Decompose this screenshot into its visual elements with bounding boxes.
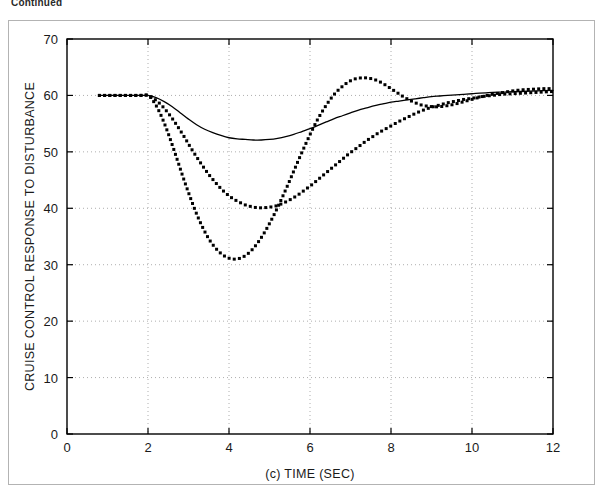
data-point-marker <box>548 87 551 90</box>
data-point-marker <box>239 201 242 204</box>
data-point-marker <box>445 104 448 107</box>
data-point-marker <box>408 115 411 118</box>
data-point-marker <box>379 81 382 84</box>
data-point-marker <box>302 190 305 193</box>
data-point-marker <box>160 114 163 117</box>
data-point-marker <box>158 102 161 105</box>
data-point-marker <box>286 185 289 188</box>
data-point-marker <box>516 89 519 92</box>
data-point-marker <box>342 157 345 160</box>
data-point-marker <box>363 141 366 144</box>
data-point-marker <box>501 91 504 94</box>
data-point-marker <box>300 151 303 154</box>
data-point-marker <box>422 109 425 112</box>
data-point-marker <box>337 89 340 92</box>
data-point-marker <box>430 105 433 108</box>
data-point-marker <box>186 187 189 190</box>
data-point-marker <box>397 92 400 95</box>
data-point-marker <box>197 216 200 219</box>
data-point-marker <box>333 93 336 96</box>
data-point-marker <box>215 248 218 251</box>
data-point-marker <box>307 137 310 140</box>
data-point-marker <box>167 133 170 136</box>
data-point-marker <box>181 173 184 176</box>
data-point-marker <box>157 109 160 112</box>
data-point-marker <box>230 196 233 199</box>
data-point-marker <box>462 98 465 101</box>
data-point-marker <box>274 204 277 207</box>
series-layer <box>98 76 553 260</box>
data-point-marker <box>260 236 263 239</box>
data-point-marker <box>367 138 370 141</box>
data-point-marker <box>163 123 166 126</box>
data-point-marker <box>165 128 168 131</box>
data-point-marker <box>304 142 307 145</box>
data-point-marker <box>318 177 321 180</box>
data-point-marker <box>296 161 299 164</box>
x-tick-label: 4 <box>225 440 232 455</box>
data-point-marker <box>212 244 215 247</box>
data-point-marker <box>219 251 222 254</box>
data-point-marker <box>238 257 241 260</box>
data-point-marker <box>269 205 272 208</box>
data-point-marker <box>177 126 180 129</box>
data-point-marker <box>134 94 137 97</box>
data-point-marker <box>314 180 317 183</box>
series-dots-underdamped-oscillatory-response <box>98 76 551 260</box>
data-point-marker <box>199 221 202 224</box>
data-point-marker <box>345 82 348 85</box>
x-tick-label: 10 <box>465 440 479 455</box>
data-point-marker <box>251 248 254 251</box>
data-point-marker <box>450 103 453 106</box>
data-point-marker <box>244 203 247 206</box>
x-tick-label: 12 <box>546 440 560 455</box>
y-tick-label: 20 <box>44 314 58 329</box>
data-point-marker <box>388 86 391 89</box>
data-point-marker <box>228 257 231 260</box>
data-point-marker <box>532 88 535 91</box>
data-point-marker <box>193 153 196 156</box>
data-point-marker <box>410 100 413 103</box>
data-point-marker <box>359 76 362 79</box>
data-point-marker <box>354 77 357 80</box>
cruise-control-response-chart: 010203040506070024681012 (c) TIME (SEC)C… <box>0 0 604 504</box>
data-point-marker <box>180 131 183 134</box>
data-point-marker <box>392 89 395 92</box>
y-tick-label: 0 <box>51 427 58 442</box>
data-point-marker <box>243 255 246 258</box>
data-point-marker <box>534 91 537 94</box>
data-point-marker <box>234 199 237 202</box>
data-point-marker <box>202 166 205 169</box>
data-point-marker <box>340 85 343 88</box>
data-point-marker <box>247 252 250 255</box>
data-point-marker <box>208 174 211 177</box>
data-point-marker <box>420 103 423 106</box>
data-point-marker <box>540 91 543 94</box>
data-point-marker <box>209 240 212 243</box>
data-point-marker <box>394 122 397 125</box>
data-point-marker <box>103 94 106 97</box>
data-point-marker <box>318 114 321 117</box>
data-point-marker <box>108 94 111 97</box>
axis-labels-layer: (c) TIME (SEC)CRUISE CONTROL RESPONSE TO… <box>23 82 355 481</box>
data-point-marker <box>179 168 182 171</box>
data-point-marker <box>174 122 177 125</box>
data-point-marker <box>452 100 455 103</box>
figure-page: Continued 010203040506070024681012 (c) T… <box>0 0 604 504</box>
data-point-marker <box>457 99 460 102</box>
data-point-marker <box>191 202 194 205</box>
y-tick-label: 40 <box>44 201 58 216</box>
data-point-marker <box>185 139 188 142</box>
x-tick-label: 2 <box>144 440 151 455</box>
data-point-marker <box>169 138 172 141</box>
data-point-marker <box>415 102 418 105</box>
data-point-marker <box>389 125 392 128</box>
data-point-marker <box>263 231 266 234</box>
data-point-marker <box>380 130 383 133</box>
data-point-marker <box>161 105 164 108</box>
data-point-marker <box>322 173 325 176</box>
data-point-marker <box>171 143 174 146</box>
y-tick-label: 70 <box>44 32 58 47</box>
data-point-marker <box>456 102 459 105</box>
data-point-marker <box>149 96 152 99</box>
